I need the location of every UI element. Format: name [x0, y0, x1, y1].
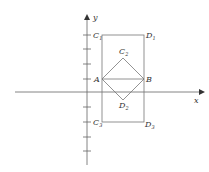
- label-d1: D1: [145, 31, 156, 41]
- coordinate-diagram: y x C1 D1 C2 A B D2 C3 D3: [0, 0, 209, 172]
- label-d2: D2: [118, 101, 129, 111]
- x-axis-arrow-icon: [199, 89, 205, 95]
- x-axis-label: x: [194, 96, 199, 105]
- label-c2: C2: [119, 47, 128, 57]
- label-a: A: [93, 75, 100, 84]
- y-axis-label: y: [92, 13, 98, 22]
- label-c3: C3: [93, 118, 102, 128]
- label-d3: D3: [144, 120, 155, 130]
- y-axis-arrow-icon: [84, 14, 90, 20]
- label-b: B: [145, 75, 152, 84]
- label-c1: C1: [93, 31, 102, 41]
